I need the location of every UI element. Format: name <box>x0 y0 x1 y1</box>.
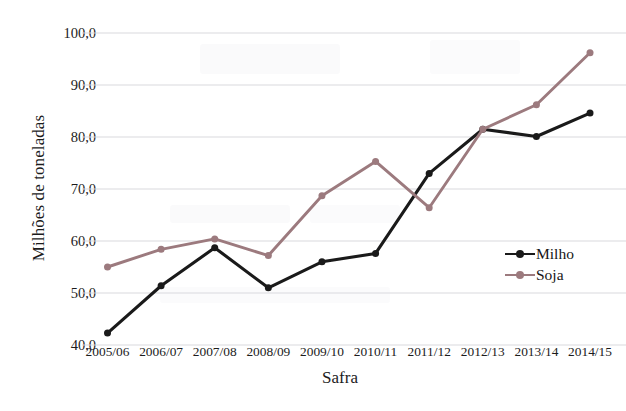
data-point-milho-2008-09 <box>265 284 272 291</box>
legend-marker-icon <box>505 248 535 260</box>
x-tick-label: 2011/12 <box>399 344 459 360</box>
legend-label: Soja <box>535 264 564 285</box>
data-point-milho-2011-12 <box>426 170 433 177</box>
x-tick-label: 2013/14 <box>506 344 566 360</box>
x-tick-label: 2010/11 <box>346 344 406 360</box>
data-point-milho-2006-07 <box>158 282 165 289</box>
legend-label: Milho <box>535 243 574 264</box>
legend-item-milho[interactable]: Milho <box>505 243 574 264</box>
x-tick-label: 2007/08 <box>185 344 245 360</box>
data-point-soja-2012-13 <box>479 126 486 133</box>
data-point-soja-2008-09 <box>265 252 272 259</box>
x-tick-label: 2009/10 <box>292 344 352 360</box>
x-tick-label: 2006/07 <box>131 344 191 360</box>
x-tick-label: 2005/06 <box>78 344 138 360</box>
gridlines <box>82 33 626 345</box>
x-axis-tick-labels: 2005/062006/072007/082008/092009/102010/… <box>100 344 600 368</box>
data-point-milho-2013-14 <box>533 133 540 140</box>
data-point-soja-2007-08 <box>211 235 218 242</box>
data-point-milho-2007-08 <box>211 244 218 251</box>
x-axis-title: Safra <box>90 368 590 388</box>
data-point-soja-2013-14 <box>533 101 540 108</box>
data-point-soja-2014-15 <box>587 49 594 56</box>
data-point-milho-2005-06 <box>104 330 111 337</box>
data-point-milho-2009-10 <box>318 258 325 265</box>
data-point-soja-2006-07 <box>158 246 165 253</box>
data-point-milho-2014-15 <box>587 110 594 117</box>
chart-legend: MilhoSoja <box>505 243 574 285</box>
x-tick-label: 2008/09 <box>238 344 298 360</box>
series-line-milho <box>108 113 591 333</box>
data-point-soja-2011-12 <box>426 204 433 211</box>
data-point-soja-2005-06 <box>104 264 111 271</box>
data-point-soja-2009-10 <box>318 192 325 199</box>
x-tick-label: 2014/15 <box>560 344 620 360</box>
data-point-soja-2010-11 <box>372 158 379 165</box>
legend-item-soja[interactable]: Soja <box>505 264 574 285</box>
x-tick-label: 2012/13 <box>453 344 513 360</box>
legend-marker-icon <box>505 269 535 281</box>
line-chart: Milhões de toneladas 40,050,060,070,080,… <box>0 0 626 411</box>
data-point-milho-2010-11 <box>372 250 379 257</box>
